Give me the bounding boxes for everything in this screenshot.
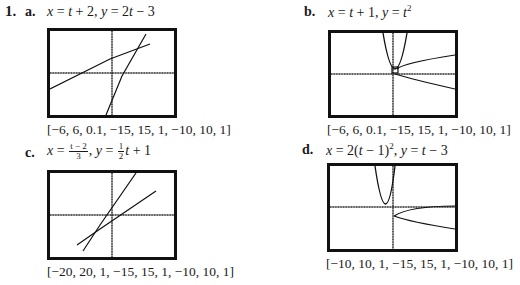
graph-c-plot [50,173,174,257]
part-b-window: [−6, 6, 0.1, −15, 15, 1, −10, 10, 1] [327,122,511,138]
graph-b-plot [331,33,455,115]
x-denominator: 3 [69,152,88,161]
part-d-equation: x = 2(t − 1)2, y = t − 3 [326,141,448,159]
problem-number: 1. [5,3,16,20]
part-a-window: [−6, 6, 0.1, −15, 15, 1, −10, 10, 1] [47,122,231,138]
graph-a-plot [50,31,174,115]
part-c-label: c. [25,145,35,161]
y-denominator: 2 [118,152,125,161]
x-fraction: t − 23 [69,142,88,161]
graph-a [47,28,177,118]
part-b-equation: x = t + 1, y = t2 [328,3,411,21]
part-c-equation: x = t − 23, y = 12t + 1 [47,142,151,161]
graph-c [47,170,177,260]
part-a-label: a. [25,4,36,20]
part-a-equation: x = t + 2, y = 2t − 3 [47,4,155,20]
part-b-label: b. [304,4,315,20]
part-c-window: [−20, 20, 1, −15, 15, 1, −10, 10, 1] [47,264,234,280]
graph-b [328,30,458,118]
y-fraction: 12 [118,142,125,161]
graph-d [327,163,458,252]
part-d-label: d. [302,142,313,158]
graph-d-plot [330,166,455,249]
part-d-window: [−10, 10, 1, −15, 15, 1, −10, 10, 1] [326,256,513,272]
